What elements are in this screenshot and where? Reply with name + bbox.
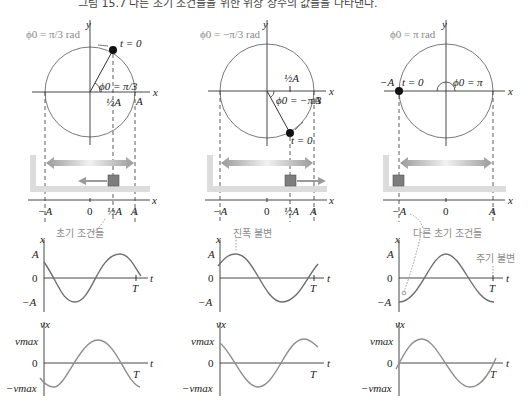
- tick-zero: 0: [32, 272, 38, 284]
- tick-a: A: [207, 248, 215, 260]
- t-label: t: [150, 357, 154, 369]
- tick-zero: 0: [387, 357, 393, 369]
- period-label: T: [310, 368, 317, 380]
- x-vs-t-graph-3: x t A 0 −A T 주기 불변: [377, 233, 515, 312]
- y-axis-label: y: [441, 18, 447, 30]
- tick-vmax: vmax: [191, 335, 214, 347]
- number-line-x: x: [328, 194, 334, 206]
- range-arrow: [400, 157, 492, 169]
- tick-a: A: [488, 205, 496, 217]
- t-label: t: [506, 357, 510, 369]
- tick-half-a: ½A: [107, 205, 122, 217]
- start-label: t = 0: [402, 76, 424, 88]
- tick-neg-a: −A: [38, 205, 52, 217]
- tick-zero: 0: [264, 205, 270, 217]
- tick-neg-a: −A: [22, 296, 36, 308]
- tick-a: A: [31, 248, 39, 260]
- tick-zero: 0: [443, 205, 449, 217]
- tick-vmax: vmax: [370, 335, 393, 347]
- v-curve: [40, 340, 140, 387]
- y-axis-label: y: [262, 18, 268, 30]
- x-axis-label: x: [152, 86, 158, 98]
- angle-label: ϕ0 = π: [453, 76, 483, 88]
- tick-zero: 0: [208, 272, 214, 284]
- vx-label: vx: [40, 318, 50, 330]
- v-vs-t-graph-1: vx t vmax 0 −vmax T: [6, 318, 154, 396]
- x-vs-t-graph-1: x t A 0 −A T: [22, 233, 154, 312]
- number-line-x: x: [507, 194, 513, 206]
- annotation-amplitude-unchanged: 진폭 불변: [233, 228, 272, 239]
- tick-a: A: [309, 205, 317, 217]
- tick-neg-a: −A: [377, 296, 391, 308]
- period-label: T: [133, 368, 140, 380]
- range-arrow: [221, 157, 313, 169]
- tick-neg-vmax: −vmax: [361, 382, 392, 394]
- tick-neg-a: −A: [198, 296, 212, 308]
- phase-label: ϕ0 = π rad: [390, 28, 436, 40]
- block: [393, 175, 404, 186]
- angle-label: ϕ0 = π/3: [99, 80, 138, 92]
- start-label: t = 0: [120, 37, 142, 49]
- velocity-arrow: [78, 177, 107, 185]
- tick-neg-vmax: −vmax: [6, 382, 37, 394]
- period-label: T: [132, 282, 139, 294]
- velocity-arrow: [297, 177, 326, 185]
- tick-a: A: [386, 248, 394, 260]
- x-axis-label: x: [507, 85, 513, 97]
- annotation-period-unchanged: 주기 불변: [476, 253, 515, 264]
- particle-dot: [109, 46, 117, 54]
- half-a-label: ½A: [284, 72, 299, 84]
- oscillator-1: x −A 0 ½A A 초기 조건들: [28, 155, 157, 239]
- period-label: T: [489, 282, 496, 294]
- tick-zero: 0: [87, 205, 93, 217]
- block: [108, 175, 119, 186]
- t-label: t: [327, 357, 331, 369]
- neg-a-label: −A: [380, 76, 394, 88]
- x-vs-t-graph-2: x t A 0 −A T: [198, 233, 331, 312]
- t-label: t: [506, 272, 510, 284]
- tick-zero: 0: [32, 357, 38, 369]
- phase-label: ϕ0 = −π/3 rad: [200, 28, 261, 40]
- x-label: x: [394, 233, 400, 245]
- t-label: t: [150, 272, 154, 284]
- y-axis-label: y: [85, 18, 91, 30]
- x-axis-label: x: [328, 85, 334, 97]
- range-arrow: [46, 157, 134, 169]
- number-line-x: x: [151, 194, 157, 206]
- vx-label: vx: [216, 318, 226, 330]
- tick-neg-a: −A: [392, 205, 406, 217]
- t-label: t: [327, 272, 331, 284]
- tick-half-a: ½A: [284, 205, 299, 217]
- annotation-initial-conditions: 초기 조건들: [56, 228, 104, 239]
- tick-a: A: [130, 205, 138, 217]
- half-a-label: ½A: [106, 96, 121, 108]
- tick-zero: 0: [387, 272, 393, 284]
- tick-vmax: vmax: [15, 335, 38, 347]
- panel-2: x y ϕ0 = −π/3 rad ½A ϕ0 = −π/3 A t = 0 x…: [182, 18, 334, 396]
- panel-1: x y ϕ0 = π/3 rad t = 0 ϕ0 = π/3 ½A A x −…: [6, 18, 158, 396]
- x-label: x: [215, 233, 221, 245]
- phase-label: ϕ0 = π/3 rad: [26, 28, 80, 40]
- period-label: T: [310, 282, 317, 294]
- tick-neg-vmax: −vmax: [182, 382, 213, 394]
- x-label: x: [39, 233, 45, 245]
- oscillator-3: x −A 0 A 다른 초기 조건들: [383, 155, 513, 239]
- a-label: A: [135, 95, 143, 107]
- block: [285, 175, 296, 186]
- annotation-other-initial-conditions: 다른 초기 조건들: [413, 228, 482, 239]
- panel-3: x y ϕ0 = π rad ϕ0 = π −A t = 0 x −A 0 A …: [361, 18, 515, 396]
- tick-zero: 0: [208, 357, 214, 369]
- v-vs-t-graph-3: vx t vmax 0 −vmax T: [361, 318, 510, 396]
- phase-constant-diagram: x y ϕ0 = π/3 rad t = 0 ϕ0 = π/3 ½A A x −…: [0, 0, 528, 413]
- v-vs-t-graph-2: vx t vmax 0 −vmax T: [182, 318, 331, 396]
- oscillator-2: x −A 0 ½A A 진폭 불변: [205, 155, 334, 250]
- start-label: t = 0: [291, 134, 313, 146]
- vx-label: vx: [395, 318, 405, 330]
- particle-dot: [395, 87, 403, 95]
- tick-neg-a: −A: [213, 205, 227, 217]
